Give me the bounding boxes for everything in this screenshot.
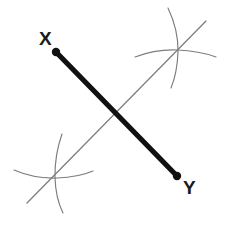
segment-xy <box>56 52 177 176</box>
point-label-x: X <box>39 29 52 48</box>
point-label-y: Y <box>183 178 196 197</box>
point-x-dot <box>52 48 60 56</box>
arc-from-x-upper-icon <box>168 8 178 88</box>
arc-from-y-upper-icon <box>135 50 216 57</box>
point-y-dot <box>173 172 181 180</box>
geometry-figure: X Y <box>0 0 227 227</box>
